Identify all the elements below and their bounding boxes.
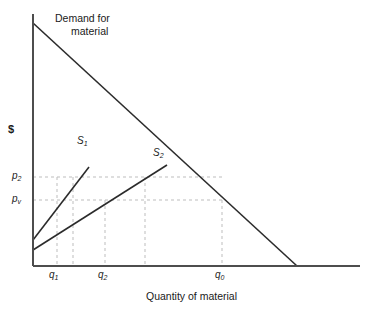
y-axis-label: $ xyxy=(8,124,14,135)
demand-curve-label: Demand for material xyxy=(55,12,110,38)
vertical-guides xyxy=(57,177,222,266)
chart-canvas xyxy=(0,0,371,309)
horizontal-guides xyxy=(33,177,222,200)
supply-s2-label-sub: 2 xyxy=(160,152,164,159)
supply-curve-s1 xyxy=(33,167,89,240)
demand-curve xyxy=(33,23,297,266)
supply-s1-label: S1 xyxy=(77,136,88,146)
supply-s2-label-main: S xyxy=(153,147,160,158)
supply-demand-chart: Demand for material $ S1 S2 p2 pv q1 q2 … xyxy=(0,0,371,309)
quantity-tick-q0-sub: 0 xyxy=(221,274,225,281)
price-tick-p2-sub: 2 xyxy=(18,175,22,182)
supply-curve-s2 xyxy=(33,165,167,250)
x-axis-label: Quantity of material xyxy=(146,291,237,302)
price-tick-pv-main: p xyxy=(12,193,18,204)
quantity-tick-q0: q0 xyxy=(215,270,224,280)
quantity-tick-q1: q1 xyxy=(49,270,58,280)
quantity-tick-q2-main: q xyxy=(98,269,104,280)
price-tick-p2-main: p xyxy=(12,170,18,181)
supply-s1-label-main: S xyxy=(77,135,84,146)
quantity-tick-q2-sub: 2 xyxy=(104,274,108,281)
demand-label-line2: material xyxy=(55,25,110,38)
price-tick-pv-sub: v xyxy=(18,198,22,205)
quantity-tick-q2: q2 xyxy=(98,270,107,280)
demand-label-line1: Demand for xyxy=(55,12,110,24)
price-tick-p2: p2 xyxy=(12,171,21,181)
supply-s2-label: S2 xyxy=(153,148,164,158)
price-tick-pv: pv xyxy=(12,194,21,204)
quantity-tick-q0-main: q xyxy=(215,269,221,280)
quantity-tick-q1-main: q xyxy=(49,269,55,280)
quantity-tick-q1-sub: 1 xyxy=(55,274,59,281)
supply-s1-label-sub: 1 xyxy=(84,140,88,147)
